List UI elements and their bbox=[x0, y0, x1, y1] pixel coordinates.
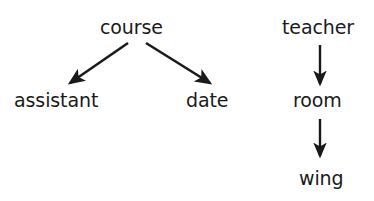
node-date: date bbox=[186, 91, 228, 110]
edge-course-date bbox=[146, 43, 210, 83]
node-assistant: assistant bbox=[14, 91, 98, 110]
edge-course-assistant bbox=[70, 43, 128, 83]
node-course: course bbox=[100, 18, 163, 37]
node-wing: wing bbox=[299, 169, 344, 188]
node-teacher: teacher bbox=[282, 18, 354, 37]
node-room: room bbox=[293, 91, 342, 110]
diagram-canvas: course assistant date teacher room wing bbox=[0, 0, 374, 201]
